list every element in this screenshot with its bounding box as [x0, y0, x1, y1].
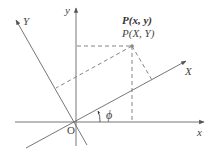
y-axis-label: y — [64, 4, 70, 16]
point-p — [130, 44, 134, 48]
dashed-to-Y-axis — [56, 46, 132, 88]
angle-label: ϕ — [106, 108, 112, 122]
x-axis-label: x — [196, 126, 202, 138]
point-XY-label: P(X, Y) — [121, 27, 155, 40]
X-axis-rotated — [26, 61, 186, 148]
rotation-of-axes-diagram: y x Y X O ϕ P(x, y) P(X, Y) — [0, 0, 213, 160]
dashed-to-X-axis — [132, 46, 152, 80]
point-xy-label: P(x, y) — [122, 14, 152, 27]
origin-label: O — [67, 124, 75, 136]
angle-phi-arc — [98, 111, 100, 122]
X-axis-label: X — [184, 65, 193, 77]
Y-axis-label: Y — [23, 15, 31, 27]
